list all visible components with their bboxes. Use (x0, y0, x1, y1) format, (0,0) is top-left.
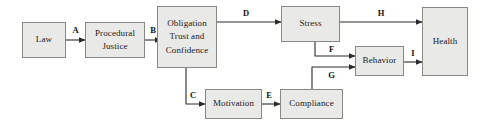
node-stress-line-0: Stress (299, 17, 321, 30)
edge-label-D: D (240, 8, 252, 18)
node-law-line-0: Law (36, 33, 52, 46)
node-obligation-line-2: Confidence (166, 44, 208, 57)
node-compliance-line-0: Compliance (289, 97, 334, 110)
node-health-line-0: Health (433, 35, 458, 48)
edge-label-H: H (375, 8, 387, 18)
flow-diagram: Law Procedural Justice Obligation Trust … (0, 0, 486, 128)
edge-label-G: G (326, 70, 337, 80)
node-compliance: Compliance (280, 89, 343, 119)
edge-label-E: E (263, 90, 275, 100)
edge-label-B: B (145, 25, 161, 35)
node-behavior-line-0: Behavior (363, 54, 397, 67)
edge-label-A: A (66, 25, 85, 35)
node-procedural-justice-line-0: Procedural (95, 27, 135, 40)
edge-label-F: F (326, 44, 337, 54)
node-behavior: Behavior (355, 46, 404, 76)
node-health: Health (422, 7, 468, 76)
node-procedural-justice-line-1: Justice (102, 40, 127, 53)
node-obligation-trust-confidence: Obligation Trust and Confidence (157, 6, 217, 68)
node-procedural-justice: Procedural Justice (85, 22, 145, 58)
node-law: Law (22, 22, 66, 58)
edge-label-I: I (408, 48, 418, 58)
edge-label-C: C (188, 90, 198, 100)
node-motivation-line-0: Motivation (213, 97, 254, 110)
node-obligation-line-0: Obligation (167, 17, 207, 30)
node-obligation-line-1: Trust and (170, 30, 205, 43)
node-motivation: Motivation (205, 89, 262, 119)
node-stress: Stress (281, 6, 340, 42)
